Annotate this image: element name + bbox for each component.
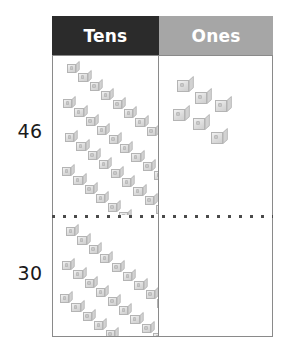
rod-cube bbox=[71, 300, 83, 312]
unit-cube bbox=[193, 114, 209, 130]
rod-cube bbox=[119, 303, 131, 315]
rod-cube bbox=[122, 175, 134, 187]
rod-cube bbox=[88, 148, 100, 160]
column-header-tens: Tens bbox=[52, 16, 159, 55]
rod-cube bbox=[85, 182, 97, 194]
rod-cube bbox=[62, 258, 74, 270]
rod-cube bbox=[86, 114, 98, 126]
face-side-face bbox=[189, 76, 193, 91]
cube-stud bbox=[100, 128, 103, 131]
rod-cube bbox=[130, 312, 142, 324]
rod-cube bbox=[62, 164, 74, 176]
face-side-face bbox=[227, 96, 231, 111]
unit-cube bbox=[177, 76, 193, 92]
rod-cube bbox=[147, 124, 158, 136]
cube-stud bbox=[113, 171, 116, 174]
place-value-table: Tens Ones bbox=[52, 16, 273, 337]
rod-cube bbox=[90, 79, 102, 91]
rod-cube bbox=[77, 233, 89, 245]
rod-cube bbox=[131, 150, 143, 162]
cube-stud bbox=[110, 205, 113, 208]
cell-ones-46 bbox=[159, 56, 272, 215]
rod-cube bbox=[66, 224, 78, 236]
cube-stud bbox=[126, 274, 129, 277]
face-side-face bbox=[207, 88, 211, 103]
cube-stud bbox=[111, 137, 114, 140]
unit-cube bbox=[173, 105, 189, 121]
rod-cube bbox=[85, 276, 97, 288]
cube-stud bbox=[122, 214, 125, 215]
face-front-face bbox=[157, 299, 158, 308]
rod-cube bbox=[73, 267, 85, 279]
face-side-face bbox=[205, 114, 209, 129]
cell-ones-30 bbox=[159, 218, 272, 336]
cube-stud bbox=[108, 332, 111, 335]
rod-cube bbox=[97, 123, 109, 135]
cube-stud bbox=[157, 173, 158, 176]
face-side-face bbox=[185, 105, 189, 120]
rod-cube bbox=[67, 61, 79, 73]
rod-cube bbox=[112, 260, 124, 272]
rod-cube bbox=[60, 291, 72, 303]
cube-stud bbox=[149, 129, 152, 132]
rod-cube bbox=[145, 193, 157, 205]
rod-cube bbox=[76, 139, 88, 151]
rod-cube bbox=[100, 251, 112, 263]
cube-stud bbox=[123, 146, 126, 149]
cube-stud bbox=[156, 335, 158, 336]
rod-cube bbox=[124, 106, 136, 118]
row-number-label-30: 30 bbox=[8, 262, 52, 284]
cube-stud bbox=[114, 265, 117, 268]
cube-stud bbox=[115, 102, 118, 105]
tens-rod bbox=[65, 130, 66, 131]
rod-cube bbox=[123, 269, 135, 281]
rod-cube bbox=[113, 97, 125, 109]
rod-cube bbox=[65, 130, 77, 142]
cube-stud bbox=[144, 326, 147, 329]
cube-stud bbox=[92, 84, 95, 87]
cube-stud bbox=[88, 119, 91, 122]
rod-cube bbox=[146, 287, 158, 299]
face-side-face bbox=[223, 128, 227, 143]
rod-cube bbox=[108, 294, 120, 306]
tens-rod bbox=[62, 164, 63, 165]
tens-rod bbox=[60, 291, 61, 292]
cube-stud bbox=[63, 296, 66, 299]
rod-cube bbox=[111, 166, 123, 178]
cube-stud bbox=[68, 135, 71, 138]
cube-stud bbox=[127, 111, 130, 114]
cube-stud bbox=[65, 169, 68, 172]
cube-stud bbox=[69, 229, 72, 232]
unit-cube bbox=[195, 88, 211, 104]
rod-cube bbox=[78, 70, 90, 82]
face-side-face bbox=[156, 124, 158, 136]
tens-rod bbox=[67, 61, 68, 62]
face-side-face bbox=[115, 327, 118, 336]
rod-cube bbox=[108, 200, 120, 212]
cube-stud bbox=[87, 187, 90, 190]
face-side-face bbox=[128, 209, 131, 215]
cube-stud bbox=[102, 162, 105, 165]
cube-stud bbox=[99, 290, 102, 293]
rod-cube bbox=[109, 132, 121, 144]
cube-stud bbox=[99, 196, 102, 199]
cube-stud bbox=[145, 164, 148, 167]
cell-tens-46 bbox=[53, 56, 158, 215]
rod-cube bbox=[89, 242, 101, 254]
cube-stud bbox=[104, 93, 107, 96]
rod-cube bbox=[83, 309, 95, 321]
rod-cube bbox=[133, 184, 145, 196]
cube-stud bbox=[70, 66, 73, 69]
table-header-row: Tens Ones bbox=[52, 16, 273, 55]
cube-stud bbox=[148, 292, 151, 295]
cell-tens-30 bbox=[53, 218, 158, 336]
cube-stud bbox=[65, 263, 68, 266]
column-header-ones: Ones bbox=[159, 16, 273, 55]
cube-stud bbox=[97, 323, 100, 326]
cube-stud bbox=[66, 101, 69, 104]
unit-cube bbox=[215, 96, 231, 112]
rod-cube bbox=[135, 115, 147, 127]
face-side-face bbox=[155, 287, 158, 299]
cube-stud bbox=[110, 299, 113, 302]
rod-cube bbox=[96, 285, 108, 297]
